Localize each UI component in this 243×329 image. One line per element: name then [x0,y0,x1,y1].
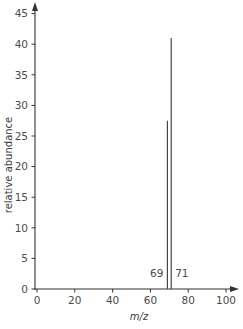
y-tick-label: 45 [15,7,28,19]
x-tick-label: 40 [106,294,119,306]
x-tick-label: 80 [182,294,195,306]
x-tick-label: 0 [34,294,41,306]
y-tick-label: 0 [21,283,28,295]
y-axis: 051015202530354045 [15,2,38,295]
y-tick-label: 25 [15,130,28,142]
y-axis-arrow-icon [32,2,38,11]
x-axis-arrow-icon [230,286,239,292]
y-tick-label: 10 [15,222,28,234]
y-tick-label: 35 [15,69,28,81]
y-tick-label: 40 [15,38,28,50]
x-tick-label: 60 [144,294,157,306]
peak-label-71: 71 [175,267,188,279]
peaks: 6971 [150,38,189,289]
x-axis-title: m/z [130,311,149,322]
x-tick-label: 20 [68,294,81,306]
y-axis-title: relative abundance [3,117,14,214]
peak-label-69: 69 [150,267,163,279]
y-tick-label: 30 [15,99,28,111]
x-tick-label: 100 [216,294,236,306]
chart-canvas: 051015202530354045 020406080100 6971 rel… [0,0,243,329]
y-tick-label: 15 [15,191,28,203]
y-tick-label: 5 [21,252,28,264]
x-axis: 020406080100 [34,286,239,306]
mass-spectrum-chart: 051015202530354045 020406080100 6971 rel… [0,0,243,329]
y-tick-label: 20 [15,160,28,172]
